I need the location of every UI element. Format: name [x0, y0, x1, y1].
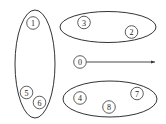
node-label: 8	[107, 103, 111, 112]
node-6: 6	[33, 96, 46, 109]
node-4: 4	[74, 92, 87, 105]
node-label: 0	[78, 58, 82, 67]
node-7: 7	[131, 87, 144, 100]
node-5: 5	[20, 86, 33, 99]
node-1: 1	[27, 17, 40, 30]
node-8: 8	[103, 101, 116, 114]
node-label: 4	[78, 94, 82, 103]
node-label: 1	[31, 19, 35, 28]
cluster-diagram: 1 5 6 3 2 0 4 8 7	[0, 0, 166, 124]
node-0: 0	[74, 56, 87, 69]
node-label: 3	[82, 19, 86, 28]
group-top-ellipse	[60, 12, 156, 43]
node-label: 7	[135, 90, 139, 99]
node-3: 3	[78, 16, 91, 29]
node-label: 6	[38, 99, 42, 108]
node-label: 2	[130, 28, 134, 37]
node-label: 5	[25, 89, 29, 98]
node-2: 2	[125, 26, 138, 39]
